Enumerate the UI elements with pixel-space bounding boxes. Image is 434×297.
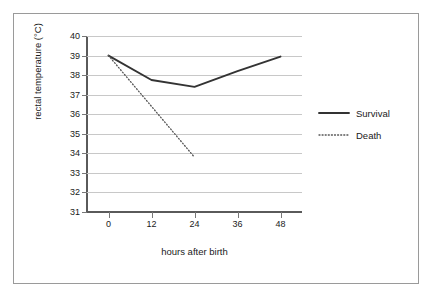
y-tick-label: 36 xyxy=(70,110,80,119)
x-tick-mark xyxy=(109,212,110,218)
y-tick-label: 40 xyxy=(70,32,80,41)
x-axis-title: hours after birth xyxy=(87,246,302,257)
series-line-death xyxy=(109,56,195,158)
x-tick-mark xyxy=(195,212,196,218)
chart-frame: rectal temperature (°C) 3132333435363738… xyxy=(13,13,419,284)
plot-area: 31323334353637383940 xyxy=(87,36,302,212)
series-line-survival xyxy=(109,56,281,87)
x-tick-mark xyxy=(238,212,239,218)
legend-label: Death xyxy=(356,130,381,141)
legend-swatch-survival-icon xyxy=(319,108,349,118)
x-tick-label: 12 xyxy=(146,220,156,229)
legend-entry-death[interactable]: Death xyxy=(319,124,414,146)
y-tick-label: 37 xyxy=(70,90,80,99)
x-tick-label: 48 xyxy=(275,220,285,229)
x-tick-label: 0 xyxy=(106,220,111,229)
series-layer xyxy=(87,36,302,212)
x-tick-label: 36 xyxy=(232,220,242,229)
y-tick-label: 38 xyxy=(70,71,80,80)
legend-swatch-death-icon xyxy=(319,130,349,140)
y-tick-label: 33 xyxy=(70,168,80,177)
x-axis-ticks: 012243648 xyxy=(87,212,302,242)
legend-label: Survival xyxy=(356,108,390,119)
chart-legend: SurvivalDeath xyxy=(319,102,414,146)
y-tick-label: 34 xyxy=(70,149,80,158)
x-tick-mark xyxy=(281,212,282,218)
legend-entry-survival[interactable]: Survival xyxy=(319,102,414,124)
y-tick-label: 35 xyxy=(70,129,80,138)
x-tick-mark xyxy=(152,212,153,218)
y-axis-title: rectal temperature (°C) xyxy=(32,2,43,142)
x-tick-label: 24 xyxy=(189,220,199,229)
y-tick-label: 39 xyxy=(70,51,80,60)
y-tick-label: 32 xyxy=(70,188,80,197)
y-tick-label: 31 xyxy=(70,208,80,217)
